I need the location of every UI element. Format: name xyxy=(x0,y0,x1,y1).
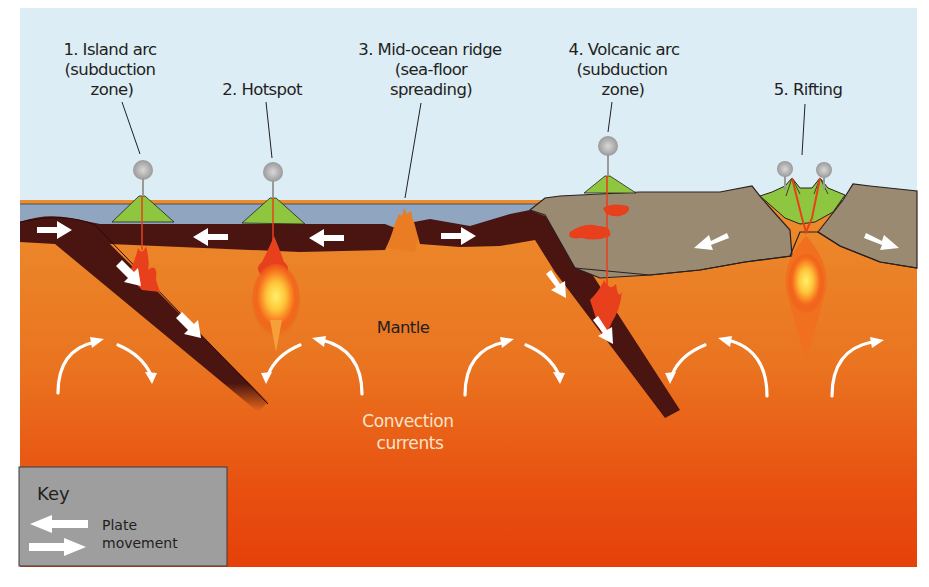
svg-text:zone): zone) xyxy=(602,80,645,99)
svg-text:1. Island arc: 1. Island arc xyxy=(63,40,157,59)
label-rifting: 5. Rifting xyxy=(774,80,843,99)
svg-text:movement: movement xyxy=(102,535,178,551)
svg-text:spreading): spreading) xyxy=(390,80,472,99)
svg-text:Plate: Plate xyxy=(102,517,137,533)
sky xyxy=(20,8,917,208)
svg-text:currents: currents xyxy=(377,433,445,453)
label-mantle: Mantle xyxy=(377,318,430,337)
svg-text:4. Volcanic arc: 4. Volcanic arc xyxy=(569,40,680,59)
svg-text:3. Mid-ocean ridge: 3. Mid-ocean ridge xyxy=(358,40,502,59)
svg-text:(sea-floor: (sea-floor xyxy=(395,60,468,79)
plate-tectonics-diagram: 1. Island arc (subduction zone) 2. Hotsp… xyxy=(0,0,929,587)
svg-text:(subduction: (subduction xyxy=(577,60,668,79)
svg-text:5. Rifting: 5. Rifting xyxy=(774,80,843,99)
svg-text:(subduction: (subduction xyxy=(65,60,156,79)
label-hotspot: 2. Hotspot xyxy=(222,80,303,99)
svg-text:Convection: Convection xyxy=(362,411,453,431)
key-legend: Key Plate movement xyxy=(19,467,227,566)
key-title: Key xyxy=(37,483,70,504)
svg-text:2. Hotspot: 2. Hotspot xyxy=(222,80,303,99)
svg-text:zone): zone) xyxy=(91,80,134,99)
